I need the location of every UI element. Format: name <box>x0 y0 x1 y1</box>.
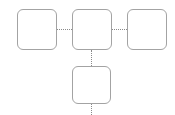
edge-center-to-right <box>112 29 127 30</box>
edge-left-to-center <box>56 29 72 30</box>
node-left[interactable] <box>17 9 57 50</box>
node-bottom[interactable] <box>72 66 111 104</box>
edge-center-to-bottom <box>91 50 92 66</box>
edge-bottom-continuation <box>91 104 92 115</box>
node-right[interactable] <box>127 9 167 50</box>
node-center[interactable] <box>72 9 112 50</box>
